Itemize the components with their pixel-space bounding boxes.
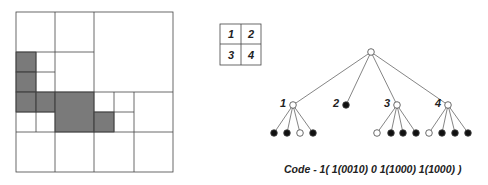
leaf-node (426, 130, 433, 137)
root-node (368, 49, 375, 56)
tree-edges (274, 52, 468, 133)
leaf-node (284, 130, 291, 137)
leaf-node (271, 130, 278, 137)
quadrant-key-label: 4 (247, 49, 254, 61)
shaded-cell (16, 72, 36, 92)
leaf-node (310, 130, 317, 137)
shaded-cell (16, 92, 36, 112)
code-caption: Code - 1( 1(0010) 0 1(1000) 1(1000) ) (284, 163, 462, 175)
shaded-cell (16, 52, 36, 72)
leaf-node (413, 130, 420, 137)
node-4 (445, 102, 452, 109)
leaf-node (452, 130, 459, 137)
leaf-node (465, 130, 472, 137)
node-label-1: 1 (280, 97, 286, 109)
shaded-cell (36, 92, 55, 112)
shaded-cell (94, 112, 114, 132)
tree-nodes (271, 49, 472, 137)
leaf-node (388, 130, 395, 137)
node-2 (343, 102, 350, 109)
quadtree-figure: 1 2 3 4 (0, 0, 488, 185)
quadrant-key-label: 3 (228, 49, 234, 61)
leaf-node (400, 130, 407, 137)
leaf-node (374, 130, 381, 137)
quadrant-key (220, 24, 261, 65)
shaded-cell (55, 92, 94, 132)
node-3 (394, 102, 401, 109)
node-label-4: 4 (434, 97, 441, 109)
quadrant-key-label: 2 (247, 28, 254, 40)
leaf-node (439, 130, 446, 137)
quadrant-key-label: 1 (228, 28, 234, 40)
node-1 (290, 102, 297, 109)
leaf-node (297, 130, 304, 137)
node-label-2: 2 (332, 97, 339, 109)
node-label-3: 3 (384, 97, 390, 109)
quadtree-grid (16, 12, 173, 172)
